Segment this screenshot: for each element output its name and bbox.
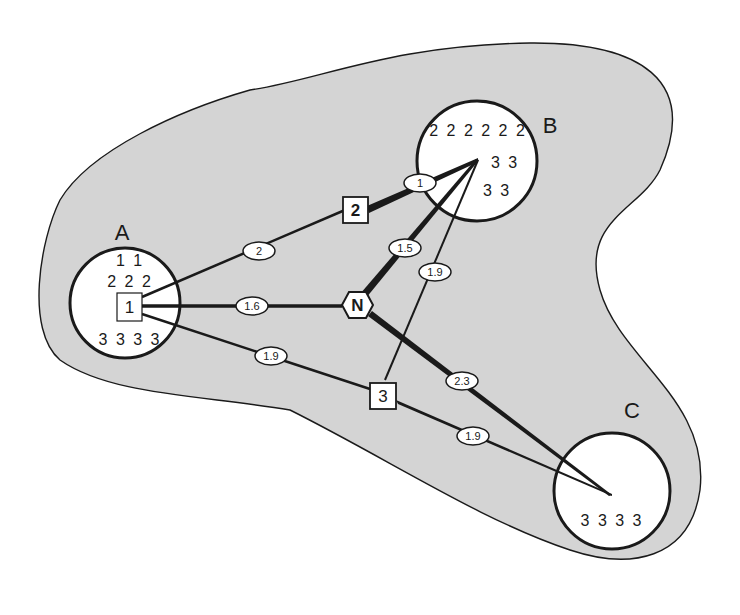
zone-b-row-1: 2 2 2 2 2 2 — [429, 122, 527, 139]
network-diagram: A B C 1 1 2 2 2 3 3 3 3 2 2 2 2 2 2 3 3 … — [0, 0, 740, 615]
svg-text:1.9: 1.9 — [427, 266, 442, 278]
svg-text:1: 1 — [125, 298, 134, 317]
weight-1-6: 1.6 — [236, 297, 268, 315]
weight-1-9-b: 1.9 — [419, 263, 451, 281]
node-3: 3 — [370, 383, 396, 409]
zone-c-row-1: 3 3 3 3 — [581, 512, 644, 529]
svg-text:2.3: 2.3 — [454, 375, 469, 387]
svg-text:2: 2 — [351, 201, 360, 220]
weight-1-5: 1.5 — [389, 239, 421, 257]
node-2: 2 — [343, 197, 368, 223]
zone-c-label: C — [624, 398, 640, 423]
svg-text:3: 3 — [378, 387, 387, 406]
svg-text:1.9: 1.9 — [263, 350, 278, 362]
svg-text:1.6: 1.6 — [244, 300, 259, 312]
svg-text:1: 1 — [417, 177, 423, 189]
svg-text:1.5: 1.5 — [397, 242, 412, 254]
zone-a-row-3: 3 3 3 3 — [99, 331, 162, 348]
zone-a-row-1: 1 1 — [116, 252, 144, 269]
svg-text:N: N — [351, 296, 363, 315]
node-1: 1 — [117, 293, 142, 321]
zone-b-label: B — [543, 113, 558, 138]
weight-2-3: 2.3 — [446, 372, 478, 390]
zone-a-row-2: 2 2 2 — [107, 273, 153, 290]
zone-c-circle — [554, 433, 670, 549]
weight-1-9-c: 1.9 — [457, 427, 489, 445]
node-n: N — [342, 292, 373, 318]
svg-text:1.9: 1.9 — [465, 430, 480, 442]
zone-b-row-2: 3 3 — [491, 154, 519, 171]
zone-a-label: A — [115, 220, 130, 245]
weight-1-9-a: 1.9 — [255, 347, 287, 365]
weight-1: 1 — [404, 174, 436, 192]
weight-2: 2 — [243, 242, 275, 260]
zone-b-row-3: 3 3 — [483, 182, 511, 199]
svg-text:2: 2 — [256, 245, 262, 257]
